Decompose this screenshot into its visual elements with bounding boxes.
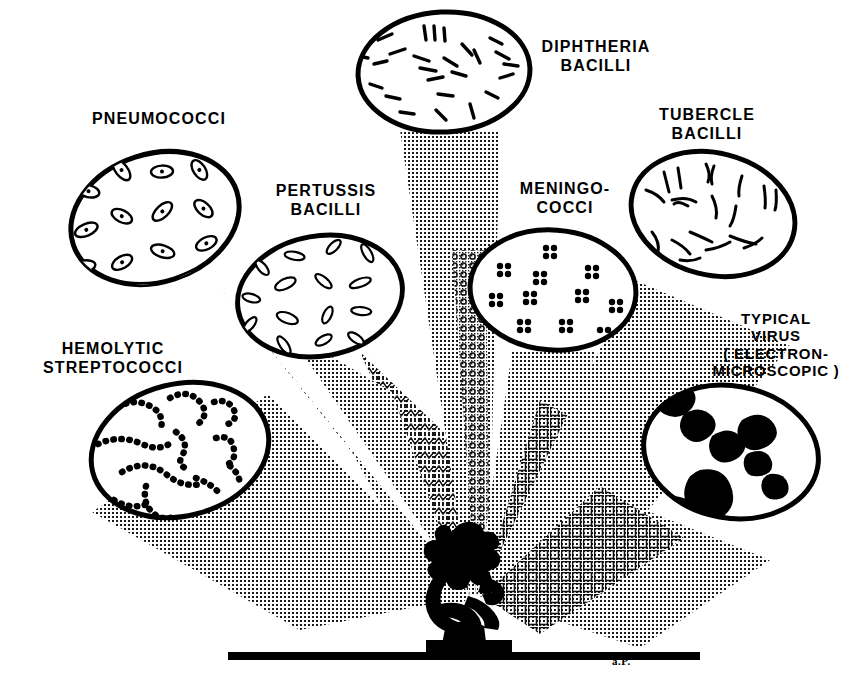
label-tubercle-bacilli: TUBERCLE BACILLI xyxy=(632,106,782,143)
label-diphtheria-bacilli: DIPHTHERIA BACILLI xyxy=(516,38,676,75)
label-pertussis-bacilli: PERTUSSIS BACILLI xyxy=(250,182,402,219)
label-hemolytic-streptococci: HEMOLYTIC STREPTOCOCCI xyxy=(18,340,208,377)
label-typical-virus: TYPICAL VIRUS ( ELECTRON- MICROSCOPIC ) xyxy=(700,310,852,380)
artist-signature: a.P. xyxy=(612,655,631,667)
label-meningococci: MENINGO- COCCI xyxy=(489,180,641,217)
label-pneumococci: PNEUMOCOCCI xyxy=(64,110,254,129)
microbe-figure: DIPHTHERIA BACILLI TUBERCLE BACILLI PNEU… xyxy=(0,0,855,694)
